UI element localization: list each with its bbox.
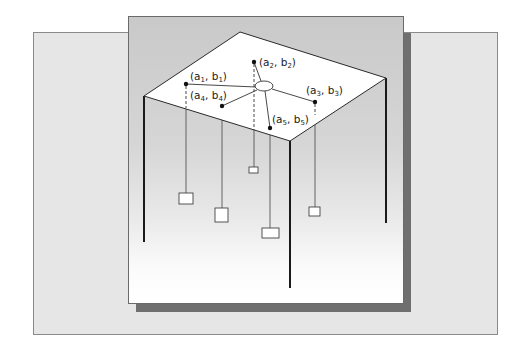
central-ring [255, 81, 273, 91]
point-5-dot [268, 126, 272, 130]
varignon-frame-diagram: (a1, b1) (a2, b2) (a3, b3) (a4, b4) (a5,… [0, 0, 521, 347]
point-2-dot [252, 60, 256, 64]
point-3-dot [313, 100, 317, 104]
weight-2 [249, 167, 258, 173]
weight-4 [215, 208, 228, 222]
weight-1 [179, 193, 193, 204]
weight-5 [262, 228, 279, 238]
point-4-dot [220, 104, 224, 108]
weights [179, 167, 320, 238]
point-1-dot [184, 82, 188, 86]
weight-3 [309, 207, 320, 216]
